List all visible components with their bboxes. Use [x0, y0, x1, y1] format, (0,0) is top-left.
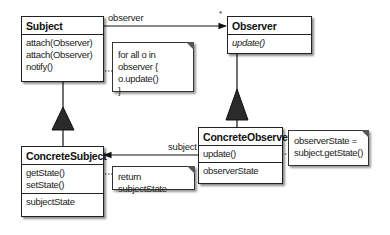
method-setstate: setState() [26, 179, 99, 191]
method-attach-2: attach(Observer) [26, 49, 99, 61]
attribute-subjectstate: subjectState [26, 196, 99, 208]
class-observer[interactable]: Observer update() [227, 16, 312, 54]
method-attach-1: attach(Observer) [26, 37, 99, 49]
method-update: update() [203, 148, 278, 160]
subject-association-label: subject [168, 141, 197, 152]
note-notify-line-1: for all o in observer { [118, 49, 188, 73]
note-fold-corner-icon [361, 130, 369, 138]
class-concrete-subject-methods: getState() setState() [22, 165, 103, 193]
note-update: observerState = subject.getState() [288, 130, 369, 166]
attribute-observerstate: observerState [203, 165, 278, 177]
method-notify: notify() [26, 61, 99, 73]
class-concrete-subject[interactable]: ConcreteSubject getState() setState() su… [21, 146, 104, 217]
class-concrete-observer[interactable]: ConcreteObserver update() observerState [198, 127, 283, 184]
note-fold-corner-icon [187, 166, 195, 174]
class-concrete-observer-methods: update() [199, 146, 282, 162]
class-observer-name: Observer [228, 17, 311, 35]
class-subject[interactable]: Subject attach(Observer) attach(Observer… [21, 16, 104, 82]
class-concrete-observer-attributes: observerState [199, 162, 282, 179]
subject-inheritance-triangle-icon [52, 107, 74, 130]
note-notify: for all o in observer { o.update() } [112, 42, 194, 92]
class-subject-methods: attach(Observer) attach(Observer) notify… [22, 35, 103, 75]
note-getstate: return subjectState [112, 166, 195, 190]
method-getstate: getState() [26, 167, 99, 179]
class-concrete-subject-name: ConcreteSubject [22, 147, 103, 165]
observer-association-label: observer [108, 12, 143, 23]
note-getstate-line-1: return subjectState [118, 171, 189, 195]
note-notify-line-3: } [118, 85, 188, 97]
observer-multiplicity-label: * [219, 9, 222, 18]
class-subject-name: Subject [22, 17, 103, 35]
note-update-line-1: observerState = [294, 135, 363, 147]
class-concrete-observer-name: ConcreteObserver [199, 128, 282, 146]
class-concrete-subject-attributes: subjectState [22, 193, 103, 210]
note-notify-line-2: o.update() [118, 73, 188, 85]
method-update-abstract: update() [232, 37, 307, 49]
note-fold-corner-icon [186, 42, 194, 50]
class-observer-methods: update() [228, 35, 311, 51]
note-update-line-2: subject.getState() [294, 147, 363, 159]
observer-inheritance-triangle-icon [226, 89, 248, 120]
